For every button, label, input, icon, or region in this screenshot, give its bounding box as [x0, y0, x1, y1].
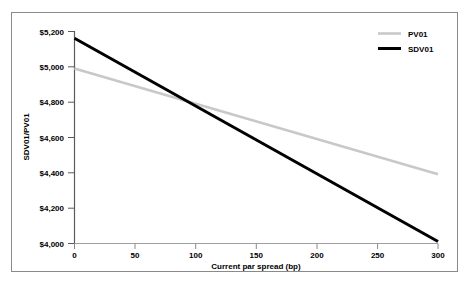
- y-tick-label-4600: $4,600: [40, 134, 65, 143]
- chart-legend: PV01 SDV01: [378, 30, 434, 54]
- chart-figure: $5,200 $5,000 $4,800 $4,600 $4,400 $4,20…: [0, 0, 472, 291]
- y-axis-title: SDV01/PV01: [22, 113, 31, 161]
- y-tick-label-4800: $4,800: [40, 98, 65, 107]
- legend-label-pv01: PV01: [408, 30, 428, 39]
- y-axis-ticks: [68, 32, 75, 244]
- x-tick-label-250: 250: [371, 251, 385, 260]
- series-line-sdv01: [75, 38, 439, 241]
- y-tick-label-5000: $5,000: [40, 63, 65, 72]
- x-tick-label-50: 50: [131, 251, 140, 260]
- x-tick-label-100: 100: [189, 251, 203, 260]
- x-axis-ticks: [75, 244, 439, 250]
- x-axis-title: Current par spread (bp): [211, 262, 301, 271]
- x-tick-label-0: 0: [72, 251, 77, 260]
- y-tick-label-4200: $4,200: [40, 204, 65, 213]
- y-tick-label-5200: $5,200: [40, 28, 65, 37]
- line-chart: $5,200 $5,000 $4,800 $4,600 $4,400 $4,20…: [0, 0, 472, 291]
- x-tick-label-150: 150: [250, 251, 264, 260]
- y-tick-label-4400: $4,400: [40, 169, 65, 178]
- x-tick-label-200: 200: [310, 251, 324, 260]
- legend-label-sdv01: SDV01: [408, 45, 434, 54]
- series-line-pv01: [75, 68, 439, 174]
- x-tick-label-300: 300: [431, 251, 445, 260]
- y-tick-label-4000: $4,000: [40, 240, 65, 249]
